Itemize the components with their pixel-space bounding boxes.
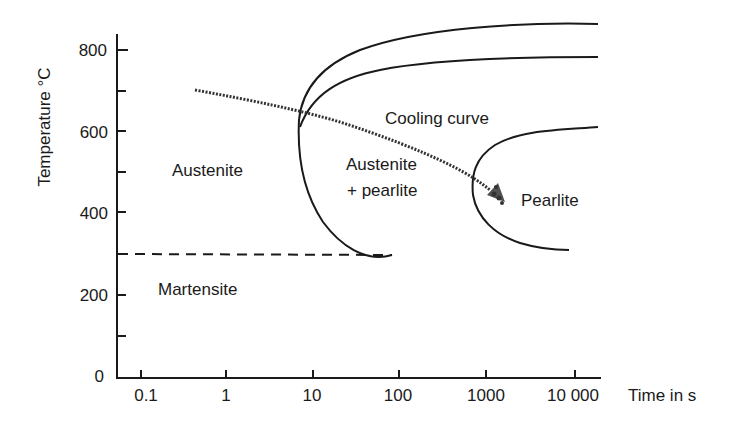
x-tick-label-0.1: 0.1 [134, 386, 158, 405]
y-tick-label-600: 600 [80, 123, 108, 142]
x-axis-title: Time in s [628, 386, 696, 405]
y-axis-title: Temperature °C [35, 67, 54, 186]
pearlite-curve [473, 127, 598, 250]
austenite-label: Austenite [172, 161, 243, 180]
y-tick-label-200: 200 [80, 286, 108, 305]
ttt-diagram: 800 600 400 200 0 0.1 1 10 100 1000 10 0… [0, 0, 740, 425]
austenite-pearlite-label-1: Austenite [346, 155, 417, 174]
cooling-curve-arrowhead-icon [487, 183, 505, 205]
pearlite-label: Pearlite [521, 191, 579, 210]
curves [299, 24, 598, 257]
cooling-curve-label: Cooling curve [385, 109, 489, 128]
y-tick-label-0: 0 [95, 367, 104, 386]
austenite-pearlite-label-2: + pearlite [347, 181, 417, 200]
transformation-start-curve [299, 24, 598, 257]
martensite-label: Martensite [158, 280, 237, 299]
x-tick-label-10000: 10 000 [547, 386, 599, 405]
martensite-start-line [118, 254, 392, 255]
x-tick-label-1: 1 [221, 386, 230, 405]
y-tick-label-800: 800 [79, 41, 107, 60]
x-tick-label-100: 100 [384, 386, 412, 405]
x-tick-label-1000: 1000 [467, 386, 505, 405]
x-tick-label-10: 10 [303, 386, 322, 405]
y-tick-label-400: 400 [80, 204, 108, 223]
